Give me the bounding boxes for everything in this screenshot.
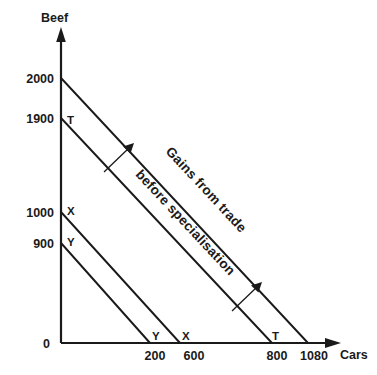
gain-arrow-upper <box>104 143 134 172</box>
ppf-line-country-x <box>61 212 180 343</box>
y-tick-label-1000: 1000 <box>26 206 54 220</box>
y-axis-title: Beef <box>41 11 69 25</box>
point-label-Y-horizontal: Y <box>152 330 160 342</box>
point-label-Y-vertical: Y <box>67 236 75 248</box>
y-tick-label-2000: 2000 <box>26 72 54 86</box>
x-tick-label-200: 200 <box>145 349 166 363</box>
point-label-T-vertical: T <box>67 114 74 126</box>
ppf-line-country-y <box>61 243 150 343</box>
y-tick-label-900: 900 <box>33 237 54 251</box>
y-tick-label-0: 0 <box>43 337 50 351</box>
x-tick-label-600: 600 <box>184 349 205 363</box>
ppf-gains-from-trade-chart: Beef Cars 2000 1900 1000 900 0 200 600 8… <box>0 0 377 375</box>
point-label-X-vertical: X <box>67 205 75 217</box>
point-label-X-horizontal: X <box>182 330 190 342</box>
x-axis-title: Cars <box>340 348 368 362</box>
chart-canvas: Beef Cars 2000 1900 1000 900 0 200 600 8… <box>0 0 377 375</box>
x-tick-label-1080: 1080 <box>300 349 328 363</box>
y-axis-arrowhead-icon <box>56 27 66 42</box>
annotation-before-specialisation: before specialisation <box>133 167 238 279</box>
point-label-T-horizontal: T <box>272 330 279 342</box>
gain-arrow-lower <box>232 282 262 311</box>
y-tick-label-1900: 1900 <box>26 112 54 126</box>
x-tick-label-800: 800 <box>267 349 288 363</box>
x-axis-arrowhead-icon <box>325 338 341 348</box>
